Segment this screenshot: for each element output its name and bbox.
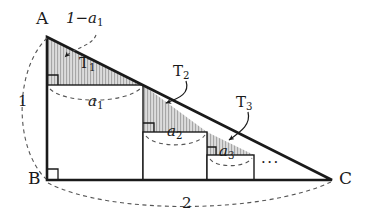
t3-subscript: 3: [246, 101, 252, 112]
diagram-canvas: [0, 0, 371, 224]
a2-text: a: [167, 122, 176, 140]
top-segment-text: 1−a: [66, 9, 97, 27]
t1-text: T: [79, 54, 89, 72]
geometry-figure: A B C 1−a1 1 2 T1 T2 T3 a1 a2 a3 ···: [0, 0, 371, 224]
triangle-label-t2: T2: [173, 64, 190, 81]
leg-length-label: 1: [18, 94, 28, 109]
top-segment-label: 1−a1: [66, 11, 104, 28]
a3-text: a: [219, 142, 228, 160]
a2-subscript: 2: [176, 130, 182, 141]
t3-text: T: [236, 93, 246, 111]
triangle-label-t1: T1: [79, 56, 96, 73]
square-label-a1: a1: [88, 94, 103, 111]
ellipsis-label: ···: [261, 155, 280, 170]
t1-subscript: 1: [89, 62, 95, 73]
t2-text: T: [173, 62, 183, 80]
a1-subscript: 1: [97, 100, 103, 111]
a1-text: a: [88, 92, 97, 110]
t2-subscript: 2: [183, 70, 189, 81]
a3-subscript: 3: [228, 150, 234, 161]
base-length-label: 2: [182, 196, 192, 211]
triangle-label-t3: T3: [236, 95, 253, 112]
vertex-label-c: C: [339, 170, 352, 187]
vertex-label-a: A: [36, 10, 48, 27]
square-label-a3: a3: [219, 144, 234, 161]
square-label-a2: a2: [167, 124, 182, 141]
vertex-label-b: B: [28, 170, 41, 187]
top-segment-subscript: 1: [97, 17, 103, 28]
